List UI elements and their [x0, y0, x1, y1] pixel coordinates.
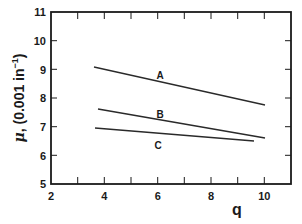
x-tick-6: 6: [155, 190, 161, 202]
y-tick-6: 6: [40, 150, 46, 162]
series-line-a: [94, 67, 265, 105]
y-tick-7: 7: [40, 121, 46, 133]
x-axis-title: q: [232, 201, 242, 218]
y-tick-8: 8: [40, 92, 46, 104]
x-tick-4: 4: [101, 190, 108, 202]
y-tick-11: 11: [34, 6, 46, 18]
x-tick-10: 10: [258, 190, 270, 202]
chart: 5 6 7 8 9 10 11 2 4 6 8 10 q μ, (0.001 i…: [0, 0, 302, 224]
series-line-b: [98, 109, 265, 138]
x-tick-2: 2: [48, 190, 54, 202]
series-label-a: A: [156, 70, 163, 81]
y-axis-title: μ, (0.001 in−1): [10, 54, 27, 143]
y-tick-9: 9: [40, 64, 46, 76]
series-line-c: [95, 128, 254, 141]
y-ticks: [51, 41, 291, 156]
plot-frame: [51, 12, 291, 184]
y-tick-10: 10: [34, 35, 46, 47]
y-tick-5: 5: [40, 178, 46, 190]
series-label-b: B: [156, 109, 163, 120]
series-label-c: C: [154, 140, 161, 151]
y-tick-labels: 5 6 7 8 9 10 11: [34, 6, 46, 190]
x-tick-8: 8: [208, 190, 214, 202]
